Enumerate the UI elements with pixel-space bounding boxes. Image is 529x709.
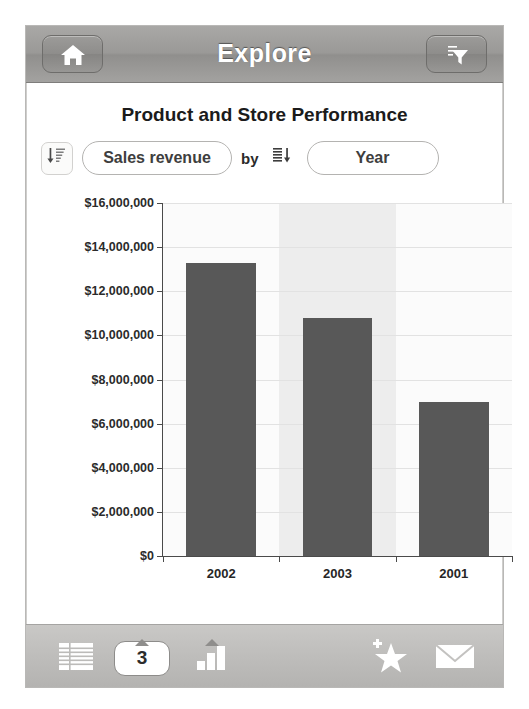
caret-up-icon <box>135 639 149 646</box>
sort-dimension-button[interactable] <box>268 142 298 175</box>
bottom-toolbar: 3 <box>26 624 503 687</box>
toolbar-chart-button[interactable] <box>184 637 240 679</box>
y-axis-line <box>162 203 163 556</box>
chart-controls-row: Sales revenue by Year <box>41 139 488 177</box>
x-axis-tick-label: 2001 <box>439 566 468 581</box>
toolbar-mail-button[interactable] <box>427 637 483 679</box>
chart-plot-wrapper: $0$2,000,000$4,000,000$6,000,000$8,000,0… <box>27 191 502 624</box>
x-axis-line <box>162 556 512 557</box>
toolbar-page-selector[interactable]: 3 <box>112 637 172 679</box>
x-axis-tick-label: 2002 <box>207 566 236 581</box>
sort-list-descending-icon <box>271 146 295 170</box>
y-axis-tick-label: $2,000,000 <box>91 505 154 519</box>
sort-descending-icon <box>46 146 68 170</box>
y-axis-tick-label: $14,000,000 <box>84 240 154 254</box>
envelope-icon <box>433 640 477 676</box>
measure-selector[interactable]: Sales revenue <box>82 141 232 175</box>
sort-measure-button[interactable] <box>41 142 73 175</box>
bar-chart-plot[interactable] <box>163 203 512 556</box>
filter-button[interactable] <box>426 35 487 73</box>
dimension-selector[interactable]: Year <box>307 141 439 175</box>
chart-title: Product and Store Performance <box>27 104 502 126</box>
x-axis-tick-label: 2003 <box>323 566 352 581</box>
bar[interactable] <box>303 318 373 556</box>
add-favorite-star-icon <box>367 637 411 679</box>
bar[interactable] <box>186 263 256 556</box>
table-list-icon <box>56 640 96 677</box>
x-axis-tick-mark <box>279 556 280 562</box>
by-label: by <box>241 150 259 167</box>
y-axis-tick-label: $0 <box>140 549 154 563</box>
toolbar-list-button[interactable] <box>48 637 104 679</box>
x-axis-tick-mark <box>163 556 164 562</box>
gridline <box>163 247 512 248</box>
filter-funnel-icon <box>427 36 486 74</box>
y-axis-tick-label: $4,000,000 <box>91 461 154 475</box>
gridline <box>163 203 512 204</box>
x-axis-tick-mark <box>396 556 397 562</box>
x-axis-tick-mark <box>512 556 513 562</box>
bar[interactable] <box>419 402 489 556</box>
y-axis-tick-label: $8,000,000 <box>91 373 154 387</box>
device-frame: Explore Product and Store Performance <box>25 25 504 688</box>
caret-up-icon <box>205 639 219 646</box>
chart-card: Product and Store Performance Sales reve… <box>26 83 503 624</box>
y-axis-tick-label: $10,000,000 <box>84 328 154 342</box>
y-axis-tick-label: $6,000,000 <box>91 417 154 431</box>
toolbar-favorite-button[interactable] <box>361 637 417 679</box>
y-axis-tick-label: $16,000,000 <box>84 196 154 210</box>
y-axis-tick-label: $12,000,000 <box>84 284 154 298</box>
app-header: Explore <box>26 26 503 83</box>
